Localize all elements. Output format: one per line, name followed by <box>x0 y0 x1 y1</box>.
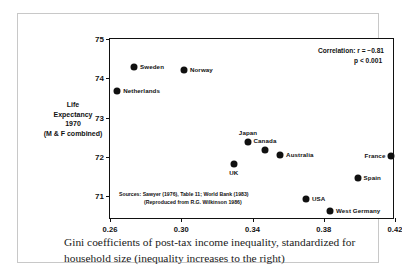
data-point <box>180 67 187 74</box>
y-axis-title-line-1: Life <box>38 100 108 110</box>
sources-line-2: (Reproduced from R.G. Wilkinson 1986) <box>119 199 249 207</box>
sources-note: Sources: Sawyer (1976), Table 11; World … <box>119 191 249 207</box>
data-point <box>114 87 121 94</box>
data-point-label: Australia <box>286 152 313 158</box>
x-axis-tick <box>324 218 325 222</box>
data-point <box>326 208 333 215</box>
sources-line-1: Sources: Sawyer (1976), Table 11; World … <box>119 191 249 199</box>
data-point <box>131 63 138 70</box>
y-axis-tick-label: 74 <box>95 74 104 83</box>
y-axis-tick <box>106 78 110 79</box>
y-axis-tick <box>106 118 110 119</box>
data-point-label: West Germany <box>336 208 380 214</box>
data-point-label: Spain <box>364 175 381 181</box>
data-point <box>230 160 237 167</box>
x-axis-tick-label: 0.38 <box>316 225 331 234</box>
data-point-label: Sweden <box>140 63 164 69</box>
y-axis-tick-label: 75 <box>95 35 104 44</box>
y-axis-title-line-4: (M & F combined) <box>38 129 108 139</box>
x-axis-tick <box>253 218 254 222</box>
x-axis-tick-label: 0.34 <box>245 225 260 234</box>
data-point-label: France <box>365 153 386 159</box>
data-point-label: USA <box>312 196 325 202</box>
x-axis-tick-label: 0.30 <box>174 225 189 234</box>
data-point <box>354 174 361 181</box>
x-axis-tick <box>181 218 182 222</box>
data-point <box>302 196 309 203</box>
figure-caption: Gini coefficients of post-tax income ine… <box>64 234 364 266</box>
data-point-label: Canada <box>253 138 276 144</box>
x-axis-tick <box>395 218 396 222</box>
y-axis-tick <box>106 39 110 40</box>
x-axis-tick-label: 0.26 <box>103 225 118 234</box>
y-axis-tick <box>106 196 110 197</box>
correlation-r-value: Correlation: r = −0.81 <box>318 46 384 56</box>
y-axis-tick-label: 71 <box>95 192 104 201</box>
data-point-label: Norway <box>190 67 213 73</box>
plot-area: 71727374750.260.300.340.380.42 SwedenNor… <box>109 38 394 219</box>
y-axis-tick-label: 72 <box>95 153 104 162</box>
figure-card: Life Expectancy 1970 (M & F combined) 71… <box>17 13 379 263</box>
data-point-label: Netherlands <box>123 88 160 94</box>
data-point <box>261 146 268 153</box>
y-axis-tick <box>106 157 110 158</box>
x-axis-tick-label: 0.42 <box>388 225 402 234</box>
correlation-annotation: Correlation: r = −0.81 p < 0.001 <box>318 46 384 65</box>
data-point-label: UK <box>229 170 238 176</box>
y-axis-tick-label: 73 <box>95 113 104 122</box>
data-point-label: Japan <box>239 130 257 136</box>
x-axis-tick <box>110 218 111 222</box>
correlation-p-value: p < 0.001 <box>318 56 384 66</box>
data-point <box>277 152 284 159</box>
data-point <box>245 139 252 146</box>
data-point <box>388 152 395 159</box>
